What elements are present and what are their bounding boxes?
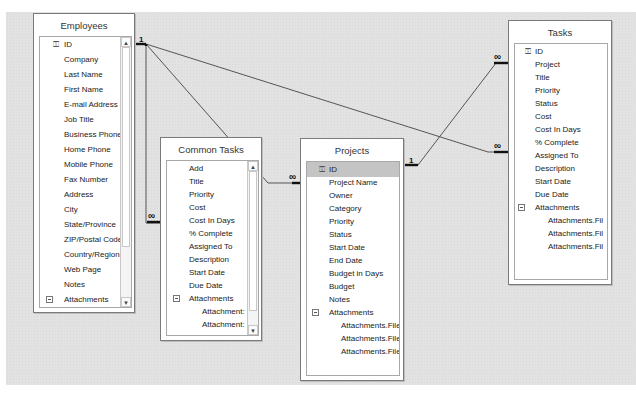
collapse-icon[interactable] (173, 295, 180, 302)
field-list[interactable]: ⚿ ID Project Title Priority Status Cost … (514, 43, 608, 280)
table-title: Tasks (509, 27, 611, 38)
scrollbar[interactable]: ▲ ▼ (247, 161, 258, 335)
field[interactable]: Company (40, 52, 131, 67)
field-attachment-sub[interactable]: Attachments (40, 307, 131, 308)
scroll-up-button[interactable]: ▲ (248, 161, 258, 171)
table-projects[interactable]: Projects ⚿ ID Project Name Owner Categor… (300, 138, 404, 381)
field[interactable]: City (40, 202, 131, 217)
scroll-up-button[interactable]: ▲ (121, 37, 131, 47)
scroll-down-button[interactable]: ▼ (121, 297, 131, 307)
field[interactable]: Mobile Phone (40, 157, 131, 172)
key-icon: ⚿ (53, 37, 59, 52)
scrollbar[interactable]: ▲ ▼ (120, 37, 131, 307)
field-primary-key[interactable]: ⚿ ID (40, 37, 131, 52)
field-list[interactable]: Add Title Priority Cost Cost In Days % C… (166, 160, 259, 336)
table-employees[interactable]: Employees ⚿ ID Company Last Name First N… (33, 13, 135, 313)
table-title: Common Tasks (161, 144, 261, 155)
rel-label-many-projects: ∞ (289, 173, 296, 181)
field[interactable]: Home Phone (40, 142, 131, 157)
field-list[interactable]: ⚿ ID Project Name Owner Category Priorit… (306, 161, 400, 376)
field[interactable]: ZIP/Postal Code (40, 232, 131, 247)
table-tasks[interactable]: Tasks ⚿ ID Project Title Priority Status… (508, 20, 612, 285)
rel-label-many-tasks-project: ∞ (494, 53, 501, 61)
rel-label-one-projects: 1 (409, 157, 413, 165)
rel-label-many-commontasks: ∞ (148, 212, 155, 220)
field[interactable]: Business Phone (40, 127, 131, 142)
field[interactable]: Web Page (40, 262, 131, 277)
rel-label-one-employees: 1 (139, 36, 143, 44)
rel-label-many-tasks: ∞ (494, 142, 501, 150)
collapse-icon[interactable] (46, 296, 53, 303)
field-attachments[interactable]: Attachments (40, 292, 131, 307)
field[interactable]: State/Province (40, 217, 131, 232)
field[interactable]: Notes (40, 277, 131, 292)
scroll-thumb[interactable] (122, 47, 130, 247)
scroll-thumb[interactable] (249, 171, 257, 311)
field[interactable]: E-mail Address (40, 97, 131, 112)
field-list[interactable]: ⚿ ID Company Last Name First Name E-mail… (39, 36, 132, 308)
field-attachment-sub[interactable]: Attachment: (167, 317, 258, 332)
field[interactable]: Fax Number (40, 172, 131, 187)
field[interactable]: Last Name (40, 67, 131, 82)
collapse-icon[interactable] (312, 309, 319, 316)
field-attachment-sub[interactable]: Attachments.File (307, 344, 399, 359)
field[interactable]: Address (40, 187, 131, 202)
field[interactable]: Country/Region (40, 247, 131, 262)
field-attachment-sub[interactable]: Attachments.Fil (515, 239, 607, 254)
field-name: ID (64, 37, 72, 52)
field[interactable]: Job Title (40, 112, 131, 127)
collapse-icon[interactable] (518, 204, 525, 211)
table-title: Employees (34, 20, 134, 31)
scroll-down-button[interactable]: ▼ (248, 325, 258, 335)
field[interactable]: First Name (40, 82, 131, 97)
table-common-tasks[interactable]: Common Tasks Add Title Priority Cost Cos… (160, 137, 262, 341)
table-title: Projects (301, 145, 403, 156)
